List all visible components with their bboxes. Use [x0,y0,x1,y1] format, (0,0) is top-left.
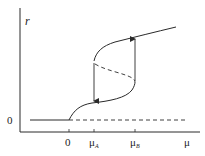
x-tick-muB-label: μB [130,136,140,149]
bifurcation-diagram: r 0 0 μA μB μ [0,0,205,156]
y-axis-label: r [25,14,30,28]
x-tick-muA-label: μA [89,136,99,149]
x-tick-0-label: 0 [65,136,71,148]
lower-stable-branch [69,82,135,120]
x-axis-label: μ [184,136,190,148]
y-tick-zero-label: 0 [7,114,13,126]
middle-unstable-branch [95,64,135,82]
